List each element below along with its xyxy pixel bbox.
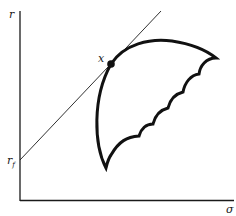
risk-free-rate-label: rf [7,155,15,169]
tangency-point-label: x [98,53,104,64]
risk-free-rate-sub: f [12,161,15,169]
tangent-line [20,11,161,160]
x-axis-label: σ [226,204,234,215]
tangency-point [107,60,115,68]
y-axis-label: r [9,9,14,20]
feasible-set-boundary [97,40,216,168]
diagram-svg [0,0,236,216]
